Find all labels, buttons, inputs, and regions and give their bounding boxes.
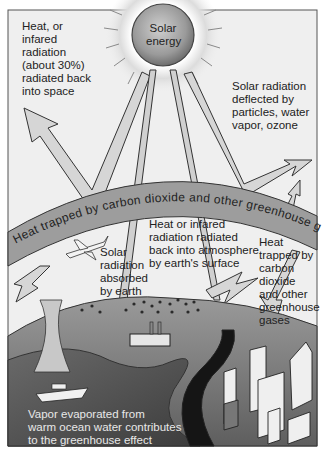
label-trapped: Heat trapped by carbon dioxide and other… — [259, 236, 320, 327]
label-absorbed: Solar radiation absorbed by earth — [100, 246, 148, 298]
greenhouse-effect-diagram: Heat trapped by carbon dioxide and other… — [0, 0, 325, 452]
label-reradiated: Heat or infared radiation radiated back … — [149, 218, 259, 270]
label-deflected: Solar radiation deflected by particles, … — [232, 80, 309, 132]
label-radiated-back: Heat, or infared radiation (about 30%) r… — [22, 20, 91, 98]
label-sun: Solar energy — [146, 22, 180, 48]
label-vapor: Vapor evaporated from warm ocean water c… — [28, 408, 181, 447]
